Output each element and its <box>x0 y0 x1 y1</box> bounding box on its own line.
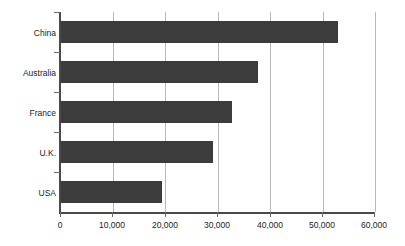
bar-uk[interactable] <box>60 141 213 163</box>
bar-chart: China Australia France U.K. USA 0 10,000… <box>0 0 405 246</box>
y-axis-tick <box>54 52 60 53</box>
y-axis-label-france: France <box>0 108 56 118</box>
y-axis-tick <box>54 172 60 173</box>
y-axis-label-usa: USA <box>0 188 56 198</box>
y-axis-tick <box>54 132 60 133</box>
bar-usa[interactable] <box>60 181 162 203</box>
x-axis-tick <box>374 212 375 217</box>
bar-france[interactable] <box>60 101 232 123</box>
bar-band <box>60 132 375 172</box>
x-axis-tick <box>60 212 61 217</box>
bar-australia[interactable] <box>60 61 258 83</box>
x-axis-tick <box>217 212 218 217</box>
bar-china[interactable] <box>60 21 338 43</box>
x-axis-tick <box>112 212 113 217</box>
y-axis-label-uk: U.K. <box>0 148 56 158</box>
bar-band <box>60 172 375 212</box>
y-axis-label-china: China <box>0 28 56 38</box>
gridline <box>375 12 376 212</box>
x-axis-tick-label: 60,000 <box>339 220 405 231</box>
y-axis-line <box>59 12 61 213</box>
y-axis-label-australia: Australia <box>0 68 56 78</box>
bar-band <box>60 12 375 52</box>
bar-band <box>60 52 375 92</box>
y-axis-tick <box>54 92 60 93</box>
bar-band <box>60 92 375 132</box>
x-axis-tick <box>165 212 166 217</box>
plot-area <box>60 12 375 212</box>
x-axis-tick <box>322 212 323 217</box>
x-axis-tick <box>270 212 271 217</box>
y-axis-tick <box>54 12 60 13</box>
